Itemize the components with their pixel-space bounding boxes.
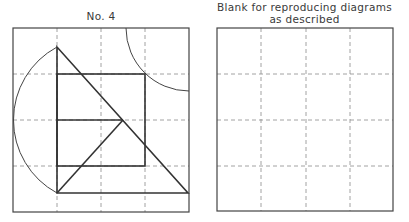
diagram-canvas — [0, 0, 409, 222]
corner-arc — [126, 28, 189, 91]
right-grid — [217, 28, 393, 211]
left-diagram-panel — [13, 28, 189, 212]
right-blank-panel — [217, 28, 393, 211]
inner-diagonal-line — [57, 120, 123, 193]
right-frame — [217, 28, 393, 211]
